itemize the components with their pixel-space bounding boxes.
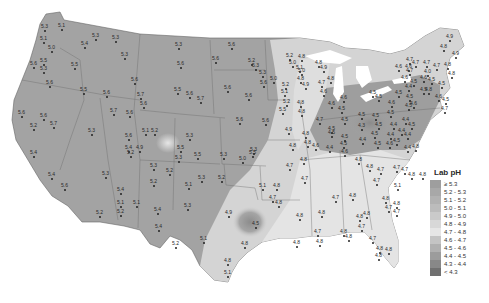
station-marker <box>426 66 428 68</box>
station-ph-label: 4.8 <box>366 164 373 169</box>
station-marker <box>284 95 286 97</box>
station-ph-label: 5.2 <box>218 175 225 180</box>
station-marker <box>380 173 382 175</box>
legend-label: 4.9 - 5.0 <box>444 213 466 219</box>
legend-item: 5.2 - 5.3 <box>430 188 486 196</box>
station-ph-label: 5.2 <box>282 82 289 87</box>
station-marker <box>221 181 223 183</box>
station-marker <box>288 133 290 135</box>
station-ph-label: 4.6 <box>386 141 393 146</box>
station-ph-label: 5.3 <box>259 70 266 75</box>
station-marker <box>244 247 246 249</box>
station-marker <box>408 90 410 92</box>
station-marker <box>129 116 131 118</box>
station-ph-label: 4.5 <box>340 141 347 146</box>
station-ph-label: 5.0 <box>48 45 55 50</box>
station-ph-label: 4.5 <box>406 94 413 99</box>
legend-swatch <box>430 252 441 260</box>
station-marker <box>44 30 46 32</box>
station-ph-label: 4.8 <box>425 87 432 92</box>
station-ph-label: 5.2 <box>286 53 293 58</box>
station-marker <box>115 41 117 43</box>
station-ph-label: 4.9 <box>446 34 453 39</box>
station-marker <box>153 185 155 187</box>
station-ph-label: 5.7 <box>137 92 144 97</box>
station-ph-label: 4.5 <box>374 141 381 146</box>
station-ph-label: 4.7 <box>412 60 419 65</box>
legend-swatch <box>430 188 441 196</box>
station-ph-label: 4.7 <box>401 167 408 172</box>
station-marker <box>178 48 180 50</box>
station-marker <box>415 150 417 152</box>
station-ph-label: 4.8 <box>419 172 426 177</box>
legend-swatch <box>430 244 441 252</box>
station-marker <box>323 71 325 73</box>
legend-item: 5.1 - 5.2 <box>430 196 486 204</box>
station-marker <box>292 149 294 151</box>
legend-item: 4.4 - 4.5 <box>430 252 486 260</box>
station-ph-label: 4.7 <box>301 176 308 181</box>
station-marker <box>64 189 66 191</box>
station-ph-label: 4.5 <box>438 81 445 86</box>
station-marker <box>175 247 177 249</box>
station-ph-label: 5.4 <box>30 150 37 155</box>
station-ph-label: 4.5 <box>387 110 394 115</box>
station-marker <box>201 181 203 183</box>
station-ph-label: 4.8 <box>355 157 362 162</box>
station-marker <box>177 93 179 95</box>
station-marker <box>292 66 294 68</box>
station-marker <box>391 106 393 108</box>
station-ph-label: 4.9 <box>302 82 309 87</box>
station-marker <box>200 102 202 104</box>
station-ph-label: 5.4 <box>117 187 124 192</box>
station-ph-label: 5.1 <box>142 128 149 133</box>
station-ph-label: 4.9 <box>320 65 327 70</box>
legend-label: 4.5 - 4.6 <box>444 245 466 251</box>
station-marker <box>378 100 380 102</box>
station-ph-label: 5.3 <box>252 63 259 68</box>
station-ph-label: 4.8 <box>356 214 363 219</box>
station-marker <box>299 219 301 221</box>
station-ph-label: 4.4 <box>390 122 397 127</box>
station-marker <box>361 230 363 232</box>
station-marker <box>21 116 23 118</box>
station-marker <box>423 93 425 95</box>
station-ph-label: 4.5 <box>369 90 376 95</box>
station-marker <box>124 58 126 60</box>
station-marker <box>376 184 378 186</box>
station-ph-label: 4.7 <box>369 236 376 241</box>
station-marker <box>120 193 122 195</box>
legend-label: ≥ 5.3 <box>444 181 457 187</box>
legend-swatch <box>430 236 441 244</box>
station-ph-label: 4.7 <box>393 209 400 214</box>
station-marker <box>43 72 45 74</box>
station-ph-label: 4.6 <box>388 100 395 105</box>
station-ph-label: 4.9 <box>225 210 232 215</box>
legend-swatch <box>430 220 441 228</box>
station-marker <box>341 112 343 114</box>
legend-label: 5.1 - 5.2 <box>444 197 466 203</box>
station-marker <box>393 128 395 130</box>
legend-title: Lab pH <box>434 168 486 177</box>
station-marker <box>422 178 424 180</box>
station-ph-label: 4.8 <box>448 71 455 76</box>
station-ph-label: 4.8 <box>444 62 451 67</box>
station-ph-label: 5.5 <box>71 62 78 67</box>
station-ph-label: 5.5 <box>80 87 87 92</box>
station-marker <box>278 206 280 208</box>
station-marker <box>396 144 398 146</box>
station-ph-label: 5.4 <box>154 207 161 212</box>
station-ph-label: 5.3 <box>220 152 227 157</box>
legend-swatch <box>430 212 441 220</box>
station-ph-label: 4.7 <box>358 224 365 229</box>
station-marker <box>187 209 189 211</box>
station-marker <box>203 242 205 244</box>
station-ph-label: 5.3 <box>92 33 99 38</box>
station-marker <box>301 115 303 117</box>
station-ph-label: 5.0 <box>270 76 277 81</box>
station-marker <box>61 29 63 31</box>
station-marker <box>143 107 145 109</box>
station-ph-label: 5.2 <box>283 99 290 104</box>
station-ph-label: 4.8 <box>440 44 447 49</box>
station-marker <box>91 134 93 136</box>
